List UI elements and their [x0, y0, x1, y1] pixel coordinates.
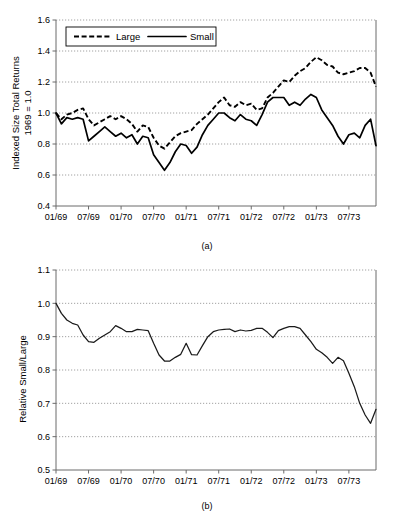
chart-b-series-paths: [56, 303, 376, 423]
legend-label-large: Large: [116, 31, 140, 42]
y-tick-label: 0.4: [37, 201, 50, 211]
chart-a-y-axis-title-line2: 1969 = 1.0: [22, 90, 33, 135]
x-tick-label: 01/72: [240, 476, 263, 486]
x-tick-label: 01/72: [240, 212, 263, 222]
chart-a-tick-marks: [53, 20, 349, 210]
chart-a-series-paths: [56, 57, 376, 170]
y-tick-label: 0.6: [37, 170, 50, 180]
chart-a-x-tick-labels: 01/6907/6901/7007/7001/7107/7101/7207/72…: [45, 212, 360, 222]
x-tick-label: 07/70: [142, 212, 165, 222]
x-tick-label: 07/73: [338, 476, 361, 486]
x-tick-label: 07/73: [338, 212, 361, 222]
x-tick-label: 07/71: [207, 212, 230, 222]
chart-a-y-axis-title-line1: Indexed Size Total Returns: [10, 56, 21, 170]
x-tick-label: 01/71: [175, 476, 198, 486]
chart-b-y-tick-labels: 0.50.60.70.80.91.01.1: [37, 265, 50, 475]
panel-a-indexed-returns: 0.40.60.81.01.21.41.6 01/6907/6901/7007/…: [0, 0, 393, 258]
y-tick-label: 1.2: [37, 77, 50, 87]
chart-b-caption: (b): [202, 501, 213, 511]
y-tick-label: 0.7: [37, 399, 50, 409]
series-line-large: [56, 57, 376, 148]
x-tick-label: 07/72: [273, 476, 296, 486]
chart-b-y-axis-title: Relative Small/Large: [17, 335, 28, 423]
chart-b-gridlines: [56, 270, 376, 437]
y-tick-label: 1.1: [37, 265, 50, 275]
x-tick-label: 07/69: [77, 212, 100, 222]
x-tick-label: 07/69: [77, 476, 100, 486]
y-tick-label: 0.8: [37, 139, 50, 149]
y-tick-label: 1.0: [37, 299, 50, 309]
y-tick-label: 0.8: [37, 365, 50, 375]
x-tick-label: 01/70: [110, 212, 133, 222]
x-tick-label: 01/71: [175, 212, 198, 222]
figure-container: 0.40.60.81.01.21.41.6 01/6907/6901/7007/…: [0, 0, 393, 517]
y-tick-label: 0.9: [37, 332, 50, 342]
x-tick-label: 01/69: [45, 476, 68, 486]
chart-a-y-tick-labels: 0.40.60.81.01.21.41.6: [37, 15, 50, 211]
y-tick-label: 1.6: [37, 15, 50, 25]
chart-b-svg: 0.50.60.70.80.91.01.1 01/6907/6901/7007/…: [0, 258, 393, 517]
y-tick-label: 1.4: [37, 46, 50, 56]
panel-b-relative-small-large: 0.50.60.70.80.91.01.1 01/6907/6901/7007/…: [0, 258, 393, 517]
x-tick-label: 07/71: [207, 476, 230, 486]
legend-label-small: Small: [190, 31, 214, 42]
chart-a-svg: 0.40.60.81.01.21.41.6 01/6907/6901/7007/…: [0, 0, 393, 258]
series-line-relative-small-large: [56, 303, 376, 423]
x-tick-label: 01/70: [110, 476, 133, 486]
chart-b-x-tick-labels: 01/6907/6901/7007/7001/7107/7101/7207/72…: [45, 476, 360, 486]
x-tick-label: 07/72: [273, 212, 296, 222]
chart-b-tick-marks: [53, 270, 349, 474]
x-tick-label: 01/73: [305, 212, 328, 222]
y-tick-label: 0.5: [37, 465, 50, 475]
y-tick-label: 1.0: [37, 108, 50, 118]
y-tick-label: 0.6: [37, 432, 50, 442]
x-tick-label: 01/69: [45, 212, 68, 222]
chart-a-legend: LargeSmall: [66, 27, 216, 46]
chart-a-caption: (a): [202, 241, 213, 251]
x-tick-label: 01/73: [305, 476, 328, 486]
x-tick-label: 07/70: [142, 476, 165, 486]
